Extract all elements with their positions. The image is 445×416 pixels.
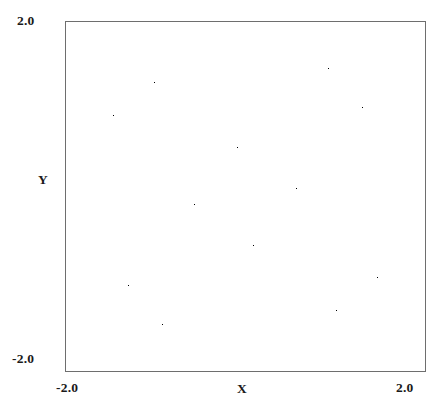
y-axis-title: Y xyxy=(38,173,48,187)
plot-frame xyxy=(65,21,426,372)
x-axis-max-tick-label: 2.0 xyxy=(396,381,413,395)
attractor-scatter-canvas xyxy=(66,22,425,371)
x-axis-title: X xyxy=(237,382,247,396)
x-axis-min-tick-label: -2.0 xyxy=(56,381,78,395)
y-axis-min-tick-label: -2.0 xyxy=(12,352,34,366)
y-axis-max-tick-label: 2.0 xyxy=(17,14,34,28)
attractor-figure: 2.0 -2.0 Y -2.0 X 2.0 xyxy=(0,0,445,416)
